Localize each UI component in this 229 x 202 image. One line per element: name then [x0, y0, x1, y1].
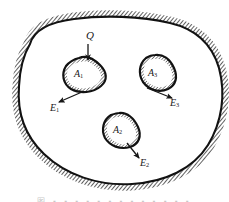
figure-container: Q A1 A3 A2 E1 E3 E2 图 ▪ ▪ ▪ ▪ ▪ ▪ ▪ ▪ ▪ … — [0, 0, 229, 202]
outer-boundary-group — [19, 17, 223, 185]
label-region-a2: A2 — [113, 125, 122, 136]
label-region-a1: A1 — [74, 69, 83, 80]
figure-caption: 图 ▪ ▪ ▪ ▪ ▪ ▪ ▪ ▪ ▪ ▪ ▪ ▪ ▪ — [0, 195, 229, 202]
label-vector-e1: E1 — [50, 103, 59, 114]
label-load-Q: Q — [86, 30, 94, 41]
label-vector-e3: E3 — [170, 98, 179, 109]
label-vector-e2: E2 — [140, 158, 149, 169]
label-region-a3: A3 — [148, 68, 157, 79]
figure-drawing — [0, 0, 229, 202]
